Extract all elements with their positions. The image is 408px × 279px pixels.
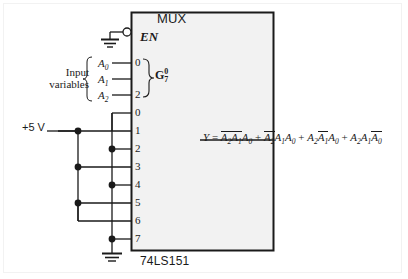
output-equation: Y = A2A1A0 + A2A1A0 + A2A1A0 + A2A1A0 [203, 131, 382, 146]
data-pin-4: 4 [135, 178, 141, 190]
chip-part-number: 74LS151 [140, 255, 189, 267]
equation-literal: A1 [318, 131, 328, 146]
input-variable-a2: A2 [98, 90, 108, 104]
plus-operator: + [339, 131, 351, 143]
select-group-label: G07 [155, 68, 168, 84]
figure-canvas: MUX EN 74LS151 +5 V Input variables A0 A… [0, 0, 408, 279]
select-pin-0: 0 [135, 56, 141, 68]
input-variables-line1: Input [66, 66, 89, 78]
input-variable-a1: A1 [98, 74, 108, 88]
output-name: Y [203, 131, 209, 143]
data-pin-7: 7 [135, 232, 141, 244]
equation-literal: A0 [285, 131, 295, 143]
data-pin-3: 3 [135, 160, 141, 172]
select-pin-2: 2 [135, 88, 141, 100]
data-pin-6: 6 [135, 214, 141, 226]
junction-dot-pin2 [109, 146, 116, 153]
data-pin-5: 5 [135, 196, 141, 208]
plus-operator: + [295, 131, 307, 143]
input-variables-label: Input variables [41, 66, 89, 90]
plus-operator: + [252, 131, 264, 143]
supply-voltage-label: +5 V [22, 122, 45, 133]
equation-literal: A2 [350, 131, 360, 143]
equation-literal: A0 [242, 131, 252, 143]
equation-literal: A1 [231, 131, 241, 146]
data-pin-1: 1 [135, 124, 141, 136]
equation-terms: A2A1A0 + A2A1A0 + A2A1A0 + A2A1A0 [218, 131, 382, 143]
select-group-subscript: 7 [164, 75, 168, 84]
junction-dot-pin4 [109, 182, 116, 189]
junction-dot-pin3 [75, 164, 82, 171]
equation-literal: A1 [361, 131, 371, 143]
equation-literal: A0 [328, 131, 338, 143]
equation-literal: A2 [307, 131, 317, 143]
select-group-range: 07 [164, 68, 168, 84]
equation-literal: A1 [275, 131, 285, 143]
enable-inversion-bubble [123, 28, 131, 36]
input-variable-a0: A0 [98, 58, 108, 72]
data-pin-0: 0 [135, 106, 141, 118]
junction-dot-pin5 [75, 200, 82, 207]
equation-literal: A2 [264, 131, 274, 146]
enable-pin-label: EN [140, 30, 158, 43]
data-pin-2: 2 [135, 142, 141, 154]
mux-title: MUX [157, 12, 187, 25]
select-group-base: G [155, 68, 164, 82]
input-variables-line2: variables [49, 78, 89, 90]
junction-dot-supply [75, 128, 82, 135]
equation-literal: A2 [221, 131, 231, 146]
equation-literal: A0 [371, 131, 381, 146]
